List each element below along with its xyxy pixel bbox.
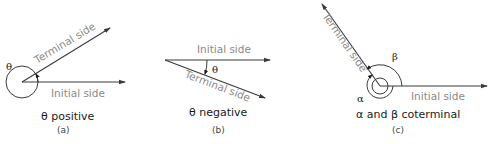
caption: θ positive (41, 110, 95, 123)
angle-arc-arrow (205, 60, 207, 74)
theta-label: θ (6, 61, 12, 72)
figure-c: β α Terminal side Initial side α and β c… (320, 4, 487, 135)
caption: θ negative (189, 106, 248, 119)
sublabel: (a) (57, 125, 70, 135)
initial-side-label: Initial side (411, 90, 465, 102)
sublabel: (c) (392, 125, 404, 135)
alpha-label: α (357, 93, 364, 104)
beta-label: β (392, 51, 398, 62)
angle-diagrams: θ Terminal side Initial side θ positive … (0, 0, 489, 144)
caption: α and β coterminal (356, 108, 460, 121)
sublabel: (b) (212, 125, 225, 135)
terminal-side-label: Terminal side (320, 9, 370, 73)
figure-b: θ Initial side Terminal side θ negative … (165, 43, 270, 135)
initial-side-label: Initial side (51, 87, 105, 99)
initial-side-label: Initial side (197, 43, 251, 55)
theta-label: θ (212, 64, 218, 75)
terminal-side-label: Terminal side (31, 20, 97, 66)
figure-a: θ Terminal side Initial side θ positive … (6, 20, 125, 135)
